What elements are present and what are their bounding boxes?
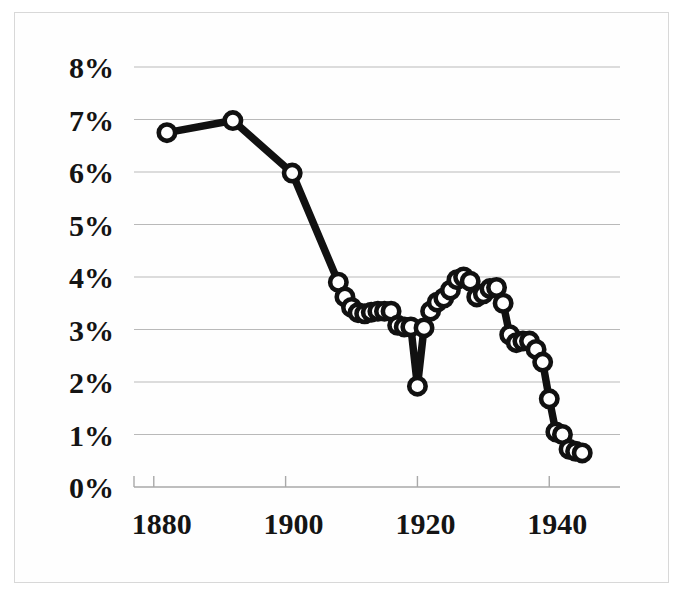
series-polyline <box>167 121 582 453</box>
chart-container: 0%1%2%3%4%5%6%7%8% 1880190019201940 <box>0 0 690 603</box>
x-tick-label-1900: 1900 <box>264 507 324 540</box>
y-tick-label-2%: 2% <box>69 366 114 399</box>
x-axis-tick-labels: 1880190019201940 <box>132 507 587 540</box>
axes <box>134 476 620 487</box>
y-tick-label-5%: 5% <box>69 209 114 242</box>
y-tick-label-0%: 0% <box>69 471 114 504</box>
x-tick-label-1920: 1920 <box>395 507 455 540</box>
data-point-marker <box>541 391 557 407</box>
y-tick-label-4%: 4% <box>69 261 114 294</box>
y-tick-label-7%: 7% <box>69 104 114 137</box>
y-tick-label-6%: 6% <box>69 156 114 189</box>
y-tick-label-8%: 8% <box>69 51 114 84</box>
data-point-marker <box>284 165 300 181</box>
y-tick-label-1%: 1% <box>69 419 114 452</box>
data-point-marker <box>409 378 425 394</box>
x-tick-label-1940: 1940 <box>527 507 587 540</box>
y-tick-label-3%: 3% <box>69 314 114 347</box>
data-point-marker <box>416 320 432 336</box>
data-point-marker <box>495 295 511 311</box>
y-axis-tick-labels: 0%1%2%3%4%5%6%7%8% <box>69 51 114 504</box>
data-point-marker <box>225 112 241 128</box>
data-point-marker <box>534 354 550 370</box>
data-point-marker <box>159 124 175 140</box>
line-chart: 0%1%2%3%4%5%6%7%8% 1880190019201940 <box>0 0 690 603</box>
data-point-markers <box>159 112 591 461</box>
data-series-line <box>167 121 582 453</box>
data-point-marker <box>574 445 590 461</box>
x-tick-label-1880: 1880 <box>132 507 192 540</box>
